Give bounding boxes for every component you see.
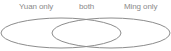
venn-svg	[0, 0, 171, 51]
ellipse-yuan	[1, 18, 121, 48]
ellipse-ming	[52, 18, 170, 48]
